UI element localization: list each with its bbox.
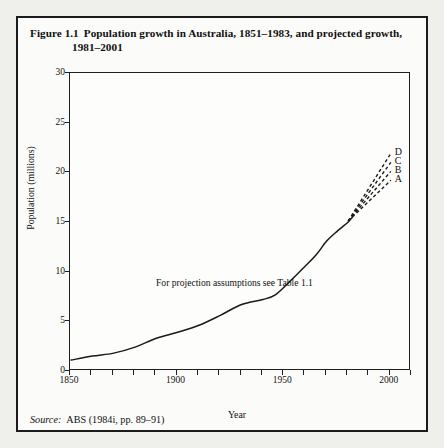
y-tick-label: 10 [56, 266, 66, 276]
x-tick-mark [240, 370, 241, 375]
projection-label-c: C [395, 156, 402, 166]
projection-line-b [348, 171, 391, 221]
source-label: Source: [30, 414, 61, 425]
plot-area: 302520151050 1850190019502000 For projec… [69, 72, 410, 370]
source-citation: ABS (1984i, pp. 89–91) [66, 414, 164, 425]
y-axis-title: Population (millions) [25, 146, 36, 230]
x-tick-label: 2000 [379, 375, 398, 385]
figure-caption-line1: Population growth in Australia, 1851–198… [84, 27, 402, 39]
projection-assumptions-note: For projection assumptions see Table 1.1 [156, 277, 313, 288]
projection-label-b: B [395, 165, 402, 175]
y-tick-label: 20 [56, 166, 66, 176]
y-tick-label: 5 [60, 315, 65, 325]
x-tick-mark [367, 370, 368, 375]
source-line: Source:ABS (1984i, pp. 89–91) [30, 414, 165, 425]
y-tick-label: 25 [56, 117, 66, 127]
projection-label-a: A [395, 174, 402, 184]
x-axis-title: Year [228, 409, 246, 420]
x-tick-mark [112, 370, 113, 375]
x-tick-mark [410, 370, 411, 375]
x-tick-mark [154, 370, 155, 375]
figure-container: Figure 1.1Population growth in Australia… [16, 16, 428, 432]
x-tick-mark [218, 370, 219, 375]
x-tick-mark [90, 370, 91, 375]
x-tick-mark [261, 370, 262, 375]
x-tick-label: 1900 [166, 375, 185, 385]
projection-lines-group [348, 153, 391, 221]
x-tick-label: 1850 [60, 375, 79, 385]
y-tick-label: 15 [56, 216, 66, 226]
figure-caption-line2: 1981–2001 [72, 40, 418, 54]
actual-population-line [71, 217, 352, 360]
x-tick-mark [303, 370, 304, 375]
x-tick-mark [197, 370, 198, 375]
x-tick-label: 1950 [273, 375, 292, 385]
projection-label-d: D [395, 147, 402, 157]
y-tick-label: 30 [56, 67, 66, 77]
y-tick-label: 0 [60, 365, 65, 375]
figure-caption: Figure 1.1Population growth in Australia… [30, 26, 418, 54]
projection-line-c [348, 162, 391, 221]
population-line-chart [69, 72, 410, 370]
figure-number: Figure 1.1 [30, 27, 79, 39]
x-tick-mark [133, 370, 134, 375]
x-tick-mark [346, 370, 347, 375]
x-tick-mark [325, 370, 326, 375]
